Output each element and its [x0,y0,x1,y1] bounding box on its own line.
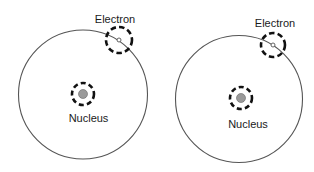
electron-label: Electron [95,13,135,25]
nucleus-dot [79,90,88,99]
nucleus-label: Nucleus [228,118,268,130]
nucleus-label: Nucleus [69,112,109,124]
atom-right: Nucleus Electron [176,17,303,163]
electron-label: Electron [255,17,295,29]
electron-dot [117,38,121,42]
nucleus-dot [237,94,246,103]
diagram-svg: Nucleus Electron Nucleus Electron [0,0,314,172]
electron-dot [271,43,275,47]
atom-diagram: Nucleus Electron Nucleus Electron [0,0,314,172]
atom-left: Nucleus Electron [19,13,148,159]
